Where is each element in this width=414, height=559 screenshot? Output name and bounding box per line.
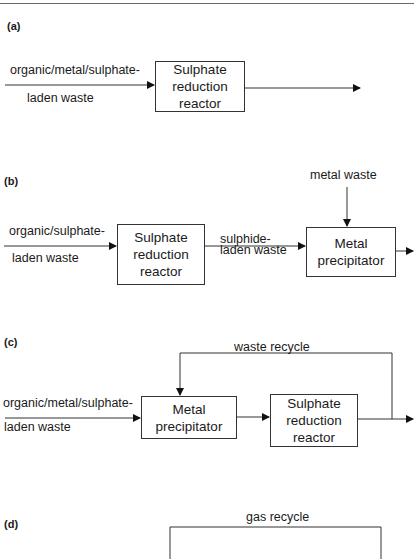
panel-a-label: (a) [7, 20, 20, 32]
box-text: Metal precipitator [318, 235, 385, 269]
panel-b-sulphide-label-2: laden waste [220, 245, 287, 256]
panel-b-input-label-2: laden waste [12, 251, 79, 265]
panel-c-input-label: organic/metal/sulphate- [3, 396, 133, 410]
panel-a-input-label: organic/metal/sulphate- [10, 63, 140, 77]
panel-d-label: (d) [4, 518, 18, 530]
box-text: Sulphate reduction reactor [172, 61, 228, 112]
panel-c-waste-recycle-label: waste recycle [234, 340, 310, 354]
panel-c-metal-precipitator: Metal precipitator [141, 396, 237, 439]
panel-b-input-label: organic/sulphate- [9, 224, 105, 238]
panel-c-input-label-2: laden waste [4, 420, 71, 434]
panel-a-input-label-2: laden waste [27, 91, 94, 105]
panel-c-sulphate-reduction-reactor: Sulphate reduction reactor [270, 394, 358, 447]
panel-c-label: (c) [4, 336, 17, 348]
box-text: Sulphate reduction reactor [286, 395, 342, 446]
box-text: Sulphate reduction reactor [133, 229, 189, 280]
panel-b-metal-waste-label: metal waste [310, 168, 377, 182]
panel-b-metal-precipitator: Metal precipitator [306, 227, 396, 277]
panel-b-label: (b) [4, 175, 18, 187]
panel-a-sulphate-reduction-reactor: Sulphate reduction reactor [155, 61, 245, 112]
box-text: Metal precipitator [156, 401, 223, 435]
panel-d-gas-recycle-label: gas recycle [246, 510, 309, 524]
panel-b-sulphate-reduction-reactor: Sulphate reduction reactor [117, 224, 205, 285]
